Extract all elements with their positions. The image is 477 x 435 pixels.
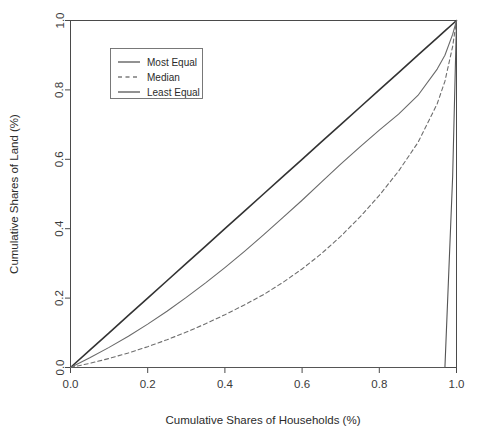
x-tick-label: 0.6 (294, 378, 310, 390)
y-tick-label: 1.0 (54, 13, 66, 29)
y-tick-label: 0.2 (54, 290, 66, 306)
legend-label-most-equal: Most Equal (147, 57, 197, 68)
x-tick-label: 0.0 (63, 378, 79, 390)
x-tick-label: 0.2 (140, 378, 156, 390)
x-axis-title: Cumulative Shares of Households (%) (166, 414, 361, 426)
legend-label-median: Median (147, 72, 180, 83)
x-axis-ticks: 0.00.20.40.60.81.0 (63, 368, 465, 390)
x-tick-label: 1.0 (449, 378, 465, 390)
x-tick-label: 0.4 (217, 378, 234, 390)
y-axis-title: Cumulative Shares of Land (%) (8, 114, 20, 274)
x-tick-label: 0.8 (371, 378, 387, 390)
chart-legend: Most EqualMedianLeast Equal (111, 49, 203, 99)
legend-label-least-equal: Least Equal (147, 87, 200, 98)
y-tick-label: 0.8 (54, 82, 66, 98)
y-tick-label: 0.4 (54, 220, 66, 237)
y-tick-label: 0.6 (54, 151, 66, 167)
y-tick-label: 0.0 (54, 360, 66, 376)
lorenz-curve-chart: 0.00.20.40.60.81.0 0.00.20.40.60.81.0 Cu… (0, 0, 477, 435)
chart-container: 0.00.20.40.60.81.0 0.00.20.40.60.81.0 Cu… (0, 0, 477, 435)
y-axis-ticks: 0.00.20.40.60.81.0 (54, 13, 71, 376)
